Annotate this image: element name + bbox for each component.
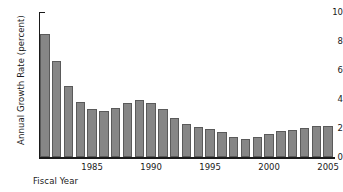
y-tick-label: 10 bbox=[311, 7, 343, 17]
bar bbox=[64, 86, 73, 157]
x-tick-label: 1990 bbox=[140, 162, 162, 172]
bar bbox=[111, 108, 120, 157]
x-tick-label: 2005 bbox=[317, 162, 339, 172]
bar bbox=[99, 111, 108, 157]
bar bbox=[312, 126, 321, 157]
bar bbox=[40, 34, 49, 157]
y-axis-top-cap bbox=[39, 12, 45, 13]
y-tick-label: 4 bbox=[311, 94, 343, 104]
bar bbox=[158, 109, 167, 157]
chart-figure: Annual Growth Rate (percent) Fiscal Year… bbox=[0, 0, 343, 192]
y-axis-title: Annual Growth Rate (percent) bbox=[14, 0, 28, 160]
bar bbox=[146, 103, 155, 157]
bar bbox=[323, 126, 332, 157]
x-tick-label: 1985 bbox=[81, 162, 103, 172]
bar bbox=[205, 129, 214, 157]
bar bbox=[241, 139, 250, 157]
bar bbox=[194, 127, 203, 157]
bar bbox=[229, 137, 238, 157]
bar bbox=[76, 102, 85, 157]
bar bbox=[87, 109, 96, 157]
bar bbox=[288, 130, 297, 157]
x-tick-label: 2000 bbox=[258, 162, 280, 172]
bar bbox=[135, 100, 144, 157]
bar bbox=[217, 132, 226, 157]
bar bbox=[170, 118, 179, 157]
x-axis-title: Fiscal Year bbox=[33, 176, 78, 186]
y-tick-label: 6 bbox=[311, 65, 343, 75]
x-tick-label: 1995 bbox=[199, 162, 221, 172]
bar bbox=[182, 124, 191, 157]
bar bbox=[300, 128, 309, 157]
bar bbox=[276, 131, 285, 157]
bar bbox=[253, 137, 262, 157]
bar bbox=[52, 61, 61, 157]
x-axis-line bbox=[39, 157, 335, 159]
bar bbox=[123, 103, 132, 157]
y-tick-label: 8 bbox=[311, 36, 343, 46]
bar bbox=[264, 134, 273, 157]
